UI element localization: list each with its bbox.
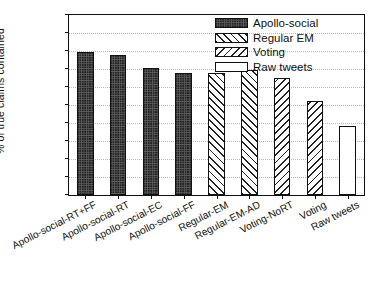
- y-tick-mark: [65, 158, 69, 159]
- y-tick-mark: [65, 194, 69, 195]
- x-tick-mark: [151, 195, 152, 199]
- legend-item-raw-tweets: Raw tweets: [215, 61, 318, 73]
- bar-raw-tweets: [339, 126, 356, 195]
- bar-voting-nort: [274, 78, 291, 195]
- legend-swatch-backward-diagonal-icon: [215, 47, 248, 57]
- x-tick-mark: [348, 195, 349, 199]
- legend-label: Voting: [253, 46, 285, 58]
- legend-label: Regular EM: [253, 32, 314, 44]
- x-tick-mark: [282, 195, 283, 199]
- legend-swatch-cross-hatch-icon: [215, 18, 248, 28]
- x-tick-mark: [249, 195, 250, 199]
- bar-apollo-social-ff: [175, 73, 192, 195]
- x-tick-mark: [85, 195, 86, 199]
- legend-label: Raw tweets: [253, 61, 312, 73]
- legend-swatch-forward-diagonal-icon: [215, 33, 248, 43]
- bar-voting: [307, 101, 324, 195]
- y-tick-mark: [65, 32, 69, 33]
- y-axis-label: % of true claims contained: [0, 0, 6, 182]
- x-tick-mark: [217, 195, 218, 199]
- bar-apollo-social-rt: [110, 55, 127, 195]
- legend-swatch-empty-icon: [215, 62, 248, 72]
- y-tick-mark: [65, 104, 69, 105]
- y-tick-mark: [65, 140, 69, 141]
- y-tick-mark: [65, 68, 69, 69]
- x-tick-mark: [118, 195, 119, 199]
- y-tick-mark: [65, 14, 69, 15]
- legend-item-voting: Voting: [215, 46, 318, 58]
- legend: Apollo-social Regular EM Voting Raw twee…: [215, 17, 318, 73]
- bar-apollo-social-ec: [143, 68, 160, 195]
- bar-chart: % of true claims contained 0102030405060…: [0, 0, 381, 288]
- x-tick-mark: [315, 195, 316, 199]
- y-tick-mark: [65, 176, 69, 177]
- bar-regular-em: [208, 73, 225, 195]
- legend-label: Apollo-social: [253, 17, 318, 29]
- y-tick-mark: [65, 122, 69, 123]
- x-tick-mark: [184, 195, 185, 199]
- legend-item-apollo-social: Apollo-social: [215, 17, 318, 29]
- y-tick-mark: [65, 86, 69, 87]
- y-tick-mark: [65, 50, 69, 51]
- bar-apollo-social-rt-ff: [77, 52, 94, 195]
- legend-item-regular-em: Regular EM: [215, 32, 318, 44]
- bar-regular-em-ad: [241, 70, 258, 195]
